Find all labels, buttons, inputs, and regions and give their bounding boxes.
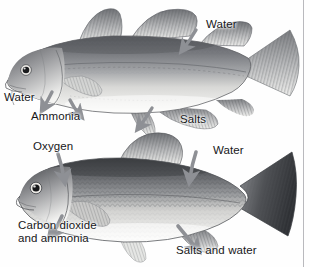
cod-caudal-fin [246,30,299,96]
label-carp-carbon-dioxide: Carbon dioxide [18,219,97,232]
osmoregulation-figure: Water Water Ammonia Salts Oxygen Water C… [0,0,310,267]
label-carp-salts-and-water: Salts and water [176,244,257,257]
page-margin-rule [303,0,304,267]
label-carp-and-ammonia: and ammonia [18,232,89,245]
label-cod-water-right: Water [206,18,237,31]
label-cod-ammonia: Ammonia [31,110,80,123]
label-carp-water: Water [213,144,244,157]
label-cod-salts: Salts [180,113,206,126]
label-carp-oxygen: Oxygen [33,140,73,153]
carp-caudal-fin [240,152,297,236]
label-cod-water-left: Water [4,91,35,104]
